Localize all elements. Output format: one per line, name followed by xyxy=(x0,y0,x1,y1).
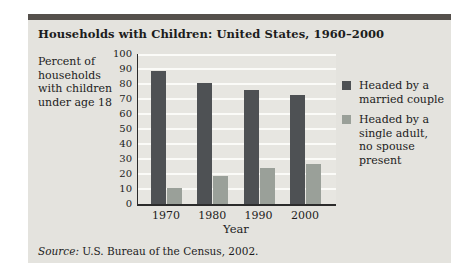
x-tick-2000: 2000 xyxy=(291,209,319,222)
figure: Households with Children: United States,… xyxy=(0,0,476,279)
bar-1980-single xyxy=(213,176,228,205)
y-tick-60: 60 xyxy=(104,108,132,120)
legend-swatch-icon xyxy=(342,115,351,124)
bar-1970-married xyxy=(151,71,166,205)
bar-1990-single xyxy=(260,168,275,204)
chart-panel: Households with Children: United States,… xyxy=(28,14,451,263)
y-tick-80: 80 xyxy=(104,78,132,90)
y-tick-10: 10 xyxy=(104,183,132,195)
legend-label: Headed by a single adult, no spouse pres… xyxy=(359,113,429,167)
bar-1970-single xyxy=(167,188,182,205)
legend-item-single-adult: Headed by a single adult, no spouse pres… xyxy=(342,113,447,167)
y-tick-0: 0 xyxy=(104,198,132,210)
bar-1980-married xyxy=(197,83,212,205)
y-tick-20: 20 xyxy=(104,168,132,180)
gridline-40 xyxy=(138,143,336,145)
legend: Headed by a married coupleHeaded by a si… xyxy=(342,79,447,174)
plot-area xyxy=(137,54,336,206)
gridline-80 xyxy=(138,83,336,85)
source-label: Source: xyxy=(38,245,82,257)
bar-2000-single xyxy=(306,164,321,205)
y-tick-40: 40 xyxy=(104,138,132,150)
source-text: U.S. Bureau of the Census, 2002. xyxy=(82,245,258,257)
legend-swatch-icon xyxy=(342,81,351,90)
gridline-90 xyxy=(138,68,336,70)
x-tick-1970: 1970 xyxy=(152,209,180,222)
y-tick-70: 70 xyxy=(104,93,132,105)
top-rule-band xyxy=(28,14,451,20)
y-axis-note: Percent of households with children unde… xyxy=(38,55,112,109)
legend-item-married-couple: Headed by a married couple xyxy=(342,79,447,106)
source-note: Source: U.S. Bureau of the Census, 2002. xyxy=(38,245,258,257)
x-tick-1980: 1980 xyxy=(198,209,226,222)
x-axis-title: Year xyxy=(137,222,335,236)
y-tick-90: 90 xyxy=(104,63,132,75)
x-tick-1990: 1990 xyxy=(245,209,273,222)
gridline-60 xyxy=(138,113,336,115)
y-tick-30: 30 xyxy=(104,153,132,165)
gridline-30 xyxy=(138,158,336,160)
bar-1990-married xyxy=(244,90,259,204)
gridline-100 xyxy=(138,54,336,56)
y-tick-50: 50 xyxy=(104,123,132,135)
legend-label: Headed by a married couple xyxy=(359,79,444,106)
y-tick-100: 100 xyxy=(104,48,132,60)
gridline-50 xyxy=(138,128,336,130)
chart-title: Households with Children: United States,… xyxy=(38,27,384,41)
bar-2000-married xyxy=(290,95,305,205)
gridline-70 xyxy=(138,98,336,100)
